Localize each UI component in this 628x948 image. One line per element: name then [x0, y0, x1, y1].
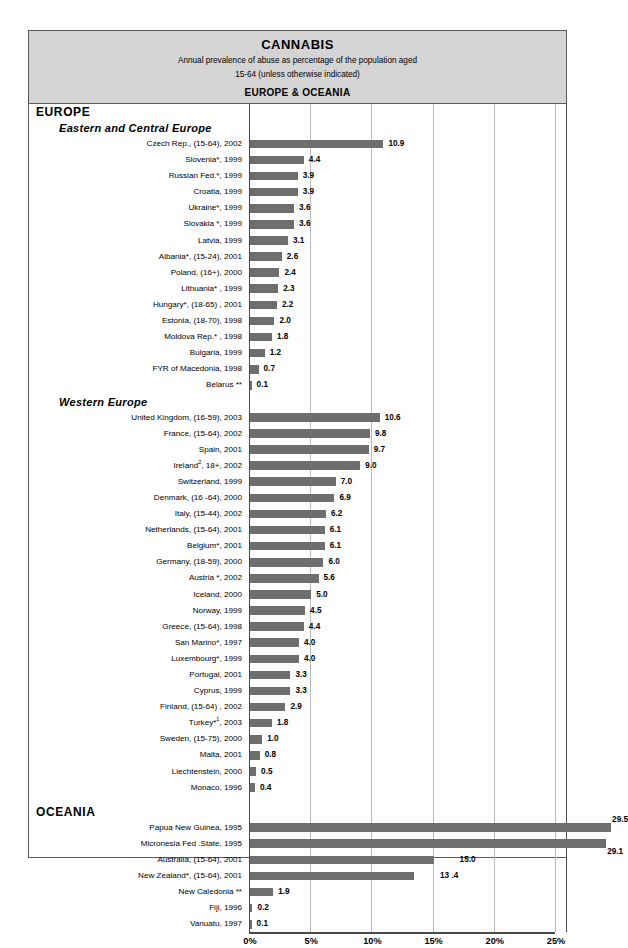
bar-value-label: 0.1 — [257, 377, 268, 393]
bar-row[interactable]: Greece, (15-64), 19984.4 — [29, 619, 566, 635]
bar — [250, 252, 282, 261]
chart-title: CANNABIS — [29, 37, 566, 53]
bar-row-label: Albania*, (15-24), 2001 — [29, 249, 242, 265]
bar-row[interactable]: Germany, (18-59), 20006.0 — [29, 554, 566, 570]
bar-row[interactable]: Iceland, 20005.0 — [29, 587, 566, 603]
bar-row-label: Slovenia*, 1999 — [29, 152, 242, 168]
bar-row[interactable]: Ukraine*, 19993.6 — [29, 200, 566, 216]
bar — [250, 365, 259, 374]
x-tick-0%: 0% — [243, 936, 256, 946]
bar-row[interactable]: Denmark, (16 -64), 20006.9 — [29, 490, 566, 506]
bar-row[interactable]: Portugal, 20013.3 — [29, 667, 566, 683]
bar — [250, 445, 369, 454]
bar-row[interactable]: Australia, (15-64), 200115.0 — [29, 852, 566, 868]
bar-row[interactable]: FYR of Macedonia, 19980.7 — [29, 361, 566, 377]
bar-row[interactable]: Monaco, 19960.4 — [29, 780, 566, 796]
bar-row[interactable]: Croatia, 19993.9 — [29, 184, 566, 200]
subsection-heading: Western Europe — [29, 394, 566, 410]
bar-row[interactable]: Russian Fed.*, 19993.9 — [29, 168, 566, 184]
bar-row[interactable]: Hungary*, (18-65) , 20012.2 — [29, 297, 566, 313]
bar-row[interactable]: Ireland2, 18+, 20029.0 — [29, 458, 566, 474]
bar-row[interactable]: Finland, (15-64) , 20022.9 — [29, 699, 566, 715]
bar-row[interactable]: Belarus **0.1 — [29, 377, 566, 393]
bar-value-label: 5.6 — [324, 570, 335, 586]
bar-row[interactable]: Liechtenstein, 20000.5 — [29, 764, 566, 780]
bar-row[interactable]: New Caledonia **1.9 — [29, 884, 566, 900]
bar — [250, 735, 262, 744]
bar-row[interactable]: Spain, 20019.7 — [29, 442, 566, 458]
bar-value-label: 6.0 — [328, 554, 339, 570]
bar-row[interactable]: Lithuania* , 19992.3 — [29, 281, 566, 297]
chart-body: EUROPEEastern and Central EuropeCzech Re… — [29, 104, 566, 859]
bar-row[interactable]: Papua New Guinea, 199529.5 — [29, 820, 566, 836]
bar-row-label: Turkey*1, 2003 — [29, 715, 242, 731]
bar-row[interactable]: Poland, (16+), 20002.4 — [29, 265, 566, 281]
bar-value-label: 29.1 — [607, 844, 623, 860]
bar — [250, 823, 611, 832]
bar-row-label: Iceland, 2000 — [29, 587, 242, 603]
bar-value-label: 1.2 — [270, 345, 281, 361]
bar-row[interactable]: Malta, 20010.8 — [29, 747, 566, 763]
bar — [250, 622, 304, 631]
bar-row[interactable]: Slovakia *, 19993.6 — [29, 216, 566, 232]
bar-row-label: United Kingdom, (16-59), 2003 — [29, 410, 242, 426]
bar-row[interactable]: Fiji, 19960.2 — [29, 900, 566, 916]
bar-row[interactable]: San Marino*, 19974.0 — [29, 635, 566, 651]
bar-row[interactable]: Vanuatu, 19970.1 — [29, 916, 566, 932]
bar-value-label: 9.0 — [365, 458, 376, 474]
bar-row-label: Ukraine*, 1999 — [29, 200, 242, 216]
bar-value-label: 1.9 — [278, 884, 289, 900]
bar-row[interactable]: France, (15-64), 20029.8 — [29, 426, 566, 442]
bar-value-label: 9.7 — [374, 442, 385, 458]
bar-value-label: 2.6 — [287, 249, 298, 265]
bar-row-label: Norway, 1999 — [29, 603, 242, 619]
row-spacer — [29, 796, 566, 804]
bar-row[interactable]: Estonia, (18-70), 19982.0 — [29, 313, 566, 329]
bar-row-label: Papua New Guinea, 1995 — [29, 820, 242, 836]
bar-row[interactable]: Moldova Rep.* , 19981.8 — [29, 329, 566, 345]
bar-row[interactable]: Slovenia*, 19994.4 — [29, 152, 566, 168]
bar-value-label: 2.2 — [282, 297, 293, 313]
bar-row-label: Liechtenstein, 2000 — [29, 764, 242, 780]
bar-row-label: Netherlands, (15-64), 2001 — [29, 522, 242, 538]
axis-bottom-line — [249, 932, 555, 933]
bar-row-label: Latvia, 1999 — [29, 233, 242, 249]
bar — [250, 783, 255, 792]
bar-row-label: Sweden, (15-75), 2000 — [29, 731, 242, 747]
bar-row[interactable]: United Kingdom, (16-59), 200310.6 — [29, 410, 566, 426]
bar-row[interactable]: Norway, 19994.5 — [29, 603, 566, 619]
bar-row-label: Estonia, (18-70), 1998 — [29, 313, 242, 329]
x-tick-15%: 15% — [424, 936, 442, 946]
bar-row-label: Bulgaria, 1999 — [29, 345, 242, 361]
chart-page: CANNABIS Annual prevalence of abuse as p… — [28, 30, 567, 858]
bar-row[interactable]: Netherlands, (15-64), 20016.1 — [29, 522, 566, 538]
bar-value-label: 6.1 — [330, 538, 341, 554]
bar-row[interactable]: Turkey*1, 20031.8 — [29, 715, 566, 731]
bar-row[interactable]: Cyprus, 19993.3 — [29, 683, 566, 699]
bar-row[interactable]: Czech Rep., (15-64), 200210.9 — [29, 136, 566, 152]
bar-row-label: Cyprus, 1999 — [29, 683, 242, 699]
x-tick-20%: 20% — [486, 936, 504, 946]
bar-row-label: Fiji, 1996 — [29, 900, 242, 916]
bar — [250, 494, 334, 503]
bar — [250, 671, 290, 680]
bar-row[interactable]: Bulgaria, 19991.2 — [29, 345, 566, 361]
bar-row[interactable]: New Zealand*, (15-64), 200113 .4 — [29, 868, 566, 884]
bar-row[interactable]: Austria *, 20025.6 — [29, 570, 566, 586]
bar — [250, 220, 294, 229]
bar-row[interactable]: Micronesia Fed .State, 199529.1 — [29, 836, 566, 852]
bar-row[interactable]: Belgium*, 20016.1 — [29, 538, 566, 554]
bar-row-label: Luxembourg*, 1999 — [29, 651, 242, 667]
bar-row-label: Spain, 2001 — [29, 442, 242, 458]
bar-row[interactable]: Sweden, (15-75), 20001.0 — [29, 731, 566, 747]
bar-row[interactable]: Switzerland, 19997.0 — [29, 474, 566, 490]
bar-row[interactable]: Albania*, (15-24), 20012.6 — [29, 249, 566, 265]
bar — [250, 236, 288, 245]
bar-value-label: 2.3 — [283, 281, 294, 297]
bar-value-label: 3.6 — [299, 216, 310, 232]
bar-row[interactable]: Luxembourg*, 19994.0 — [29, 651, 566, 667]
bar-row-label: Malta, 2001 — [29, 747, 242, 763]
bar-row[interactable]: Italy, (15-44), 20026.2 — [29, 506, 566, 522]
bar-row[interactable]: Latvia, 19993.1 — [29, 233, 566, 249]
bar-row-label: New Zealand*, (15-64), 2001 — [29, 868, 242, 884]
